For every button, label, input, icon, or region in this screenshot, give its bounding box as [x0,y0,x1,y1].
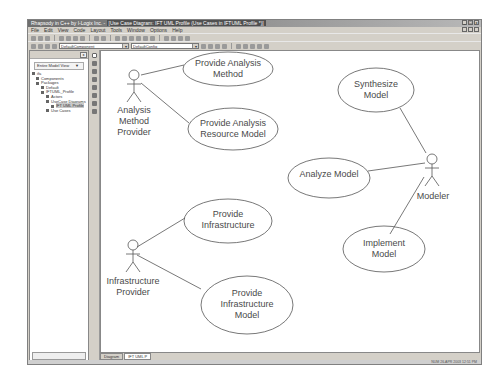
cut-icon[interactable] [59,36,64,41]
doc-minimize-button[interactable] [462,27,467,32]
drawing-palette [90,50,100,363]
actor-infrastructure-provider-icon [126,240,140,272]
association-line [368,163,425,171]
separator [231,43,232,49]
diagram4-icon[interactable] [257,44,262,49]
output-icon[interactable] [45,44,50,49]
usecase-label: ImplementModel [363,238,406,259]
chevron-down-icon[interactable]: ▾ [122,44,128,49]
model-browser: x Entire Model View ▼ ifa Components Pac… [29,50,89,363]
project-icon [32,72,35,75]
actor-label: InfrastructureProvider [106,276,159,297]
zoom-out-icon[interactable] [129,36,134,41]
diagram2-icon[interactable] [243,44,248,49]
association-line [400,108,426,153]
actor-modeler-icon [425,154,439,186]
undo-icon[interactable] [94,36,99,41]
save-icon[interactable] [45,36,50,41]
debug-icon[interactable] [215,44,220,49]
status-bar: NUM 26.APR 2003 12:51 PM [28,360,481,364]
note-tool-icon[interactable] [92,109,97,114]
copy-icon[interactable] [66,36,71,41]
build-icon[interactable] [201,44,206,49]
package-icon [41,91,44,94]
chevron-down-icon[interactable]: ▾ [192,44,198,49]
usecase-label: Analyze Model [299,169,358,179]
actor-analysis-method-provider-icon [127,70,141,102]
layout-icon[interactable] [150,36,155,41]
association-line [390,177,424,234]
doc-close-button[interactable] [474,27,479,32]
package-icon [41,86,44,89]
chevron-down-icon[interactable]: ▼ [75,63,79,69]
browser-header: x [30,51,88,59]
doc-restore-button[interactable] [468,27,473,32]
boundary-tool-icon[interactable] [92,77,97,82]
document-title: [Use Case Diagram: IFT UML Profile (Use … [107,20,266,26]
grid-icon[interactable] [143,36,148,41]
animate-icon[interactable] [185,36,190,41]
select-arrow-icon[interactable] [92,53,97,58]
redo-icon[interactable] [101,36,106,41]
association-line [137,218,185,247]
actor-label: AnalysisMethodProvider [117,105,151,137]
generate-icon[interactable] [164,36,169,41]
association-tool-icon[interactable] [92,85,97,90]
folder-icon [36,82,39,85]
association-line [141,65,184,75]
rebuild-icon[interactable] [208,44,213,49]
actor-icon [46,95,49,98]
zoom-in-icon[interactable] [122,36,127,41]
configuration-combo[interactable]: DefaultConfig ▾ [131,43,199,49]
use-case-diagram: AnalysisMethodProvider InfrastructurePro… [101,51,483,352]
fit-icon[interactable] [136,36,141,41]
actor-label: Modeler [417,191,450,201]
favorites-icon[interactable] [52,44,57,49]
print-icon[interactable] [80,36,85,41]
diagram-canvas[interactable]: AnalysisMethodProvider InfrastructurePro… [100,50,480,353]
title-bar: Rhapsody in C++ by I-Logix Inc. - [Use C… [28,20,481,27]
horizontal-scrollbar[interactable] [32,352,86,360]
diagram5-icon[interactable] [264,44,269,49]
component-combo[interactable]: DefaultComponent ▾ [59,43,129,49]
features-icon[interactable] [38,44,43,49]
make-icon[interactable] [171,36,176,41]
diagram1-icon[interactable] [236,44,241,49]
rhapsody-window: Rhapsody in C++ by I-Logix Inc. - [Use C… [27,19,482,365]
usecase-label: Provide AnalysisMethod [195,58,262,79]
close-icon[interactable]: x [80,52,87,58]
usecase-label: ProvideInfrastructureModel [220,288,273,320]
maximize-button[interactable]: □ [468,20,473,25]
browser-icon[interactable] [31,44,36,49]
minimize-button[interactable]: _ [462,20,467,25]
dependency-tool-icon[interactable] [92,101,97,106]
tab-ift-uml-profile[interactable]: IFT UML P [124,353,151,360]
diagram-folder-icon [46,100,49,103]
close-button[interactable]: x [474,20,479,25]
generalization-tool-icon[interactable] [92,93,97,98]
usecase-label: ProvideInfrastructure [201,209,254,230]
view-selector[interactable]: Entire Model View ▼ [34,62,84,70]
paste-icon[interactable] [73,36,78,41]
run-icon[interactable] [178,36,183,41]
new-icon[interactable] [31,36,36,41]
tree-node[interactable]: Use Cases [30,109,88,114]
usecase-label: SynthesizeModel [354,79,398,100]
diagram-tabs: Diagram IFT UML P [100,353,151,360]
diagram3-icon[interactable] [250,44,255,49]
model-tree: ifa Components Packages Default IFTUML_P… [30,72,88,113]
tab-diagram[interactable]: Diagram [100,353,123,360]
app-title: Rhapsody in C++ by I-Logix Inc. [28,20,102,26]
zoom-icon[interactable] [115,36,120,41]
usecase-label: Provide AnalysisResource Model [200,118,267,139]
config-toolbar: DefaultComponent ▾ DefaultConfig ▾ [28,41,481,50]
actor-tool-icon[interactable] [92,61,97,66]
usecase-tool-icon[interactable] [92,69,97,74]
status-text: NUM 26.APR 2003 12:51 PM [431,360,477,364]
usecase-icon [46,109,49,112]
folder-icon [36,77,39,80]
stop-icon[interactable] [222,44,227,49]
open-icon[interactable] [38,36,43,41]
